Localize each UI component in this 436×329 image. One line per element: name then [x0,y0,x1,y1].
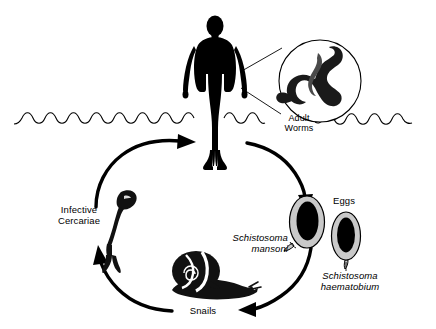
adult-worms-inset [276,40,361,122]
human-host-icon [183,16,248,171]
infective-cercaria-icon [102,190,136,273]
schistosoma-life-cycle-diagram: Adult Worms Infective Cercariae Eggs Sch… [0,0,436,329]
label-adult-worms: Adult Worms [272,113,326,133]
snail-icon [172,251,261,299]
label-schistosoma-mansoni: Schistosoma mansoni [210,232,288,254]
egg-schistosoma-haematobium-icon [332,212,361,269]
arrow-cercariae-to-human [96,134,196,207]
arrow-snails-to-cercariae [93,245,172,311]
label-infective-cercariae: Infective Cercariae [44,204,114,226]
label-schistosoma-haematobium: Schistosoma haematobium [298,270,402,292]
label-eggs: Eggs [333,195,373,206]
label-snails: Snails [178,305,228,316]
